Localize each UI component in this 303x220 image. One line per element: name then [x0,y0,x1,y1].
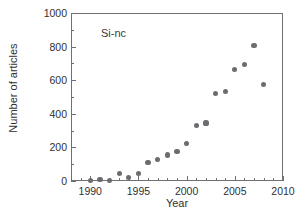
x-axis-tick-label: 1995 [113,186,163,197]
series-annotation-label: Si-nc [101,27,126,39]
x-axis-tick-labels: 19901995200020052010 [0,0,303,220]
x-axis-tick-label: 2005 [210,186,260,197]
x-axis-title: Year [71,197,283,209]
chart-figure: 02004006008001000 19901995200020052010 S… [0,0,303,220]
x-axis-tick-label: 2000 [162,186,212,197]
y-axis-title: Number of articles [7,18,19,158]
x-axis-tick-label: 1990 [65,186,115,197]
x-axis-tick-label: 2010 [258,186,303,197]
